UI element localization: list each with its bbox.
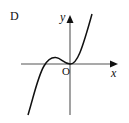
function-graph: D y x O [0, 0, 129, 123]
origin-label: O [62, 66, 70, 77]
x-axis-label: x [111, 67, 116, 79]
y-axis-label: y [60, 11, 65, 23]
y-axis-arrow-icon [67, 15, 74, 23]
option-label: D [10, 10, 19, 22]
